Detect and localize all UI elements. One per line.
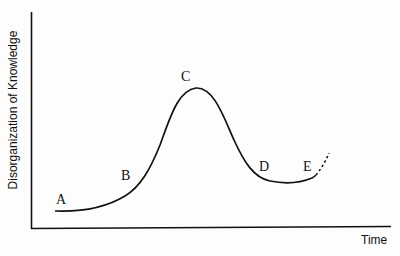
projected-curve-dashed — [316, 153, 329, 175]
diagram-canvas: Disorganization of Knowledge Time A B C … — [0, 0, 400, 256]
x-axis-label: Time — [361, 233, 387, 247]
curve-plot — [0, 0, 400, 256]
point-label-e: E — [303, 160, 312, 174]
point-label-b: B — [121, 169, 130, 183]
point-label-a: A — [56, 193, 66, 207]
point-label-d: D — [259, 160, 269, 174]
knowledge-curve — [55, 88, 316, 211]
point-label-c: C — [181, 70, 190, 84]
x-axis — [31, 227, 391, 229]
y-axis-label-text: Disorganization of Knowledge — [6, 31, 20, 190]
